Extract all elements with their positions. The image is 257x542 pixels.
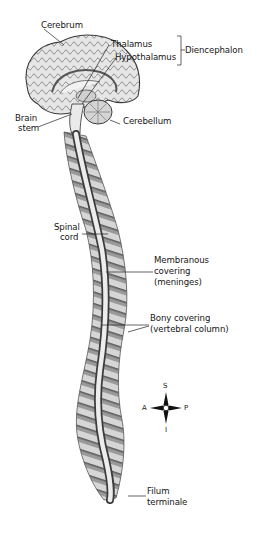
compass-inferior: I [165,425,167,436]
label-membranous-line1: Membranous [154,255,209,266]
vertebral-column-shape [64,132,127,500]
label-diencephalon: Diencephalon [185,45,243,56]
label-membranous-line2: covering [154,266,190,277]
label-bony-covering-line1: Bony covering [150,313,210,324]
label-thalamus: Thalamus [111,39,152,50]
label-spinal-cord-line1: Spinal [54,222,80,233]
cns-diagram: Cerebrum Thalamus Hypothalamus Diencepha… [0,0,257,542]
label-cerebellum: Cerebellum [123,116,171,127]
label-hypothalamus: Hypothalamus [115,52,176,63]
brain-stem-shape [70,104,84,134]
compass-anterior: A [142,403,147,414]
orientation-compass-icon [150,392,182,424]
label-spinal-cord-line2: cord [60,232,78,243]
compass-posterior: P [184,403,188,414]
label-brain-stem-line2: stem [18,123,39,134]
anatomy-illustration [0,0,257,542]
cerebellum-shape [84,100,112,124]
label-filum-line2: terminale [147,497,187,508]
label-brain-stem-line1: Brain [15,113,37,124]
compass-superior: S [163,381,167,392]
label-filum-line1: Filum [147,486,169,497]
label-cerebrum: Cerebrum [41,20,83,31]
label-bony-covering-line2: (vertebral column) [150,324,228,335]
label-membranous-line3: (meninges) [154,277,202,288]
